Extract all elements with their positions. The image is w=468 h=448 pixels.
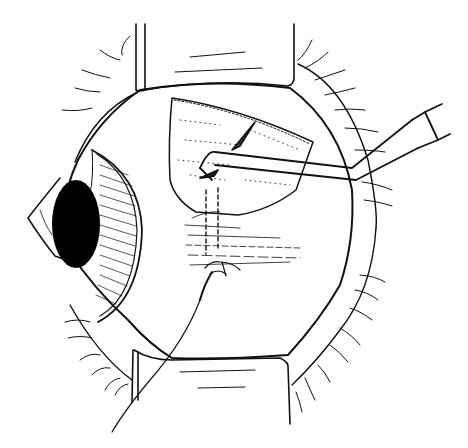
lid-margins	[70, 64, 376, 385]
surgical-illustration: Line illustration of an eye surgery: eye…	[0, 0, 468, 448]
cornea-iris	[28, 150, 142, 322]
pupil	[52, 180, 100, 268]
scleral-flap	[169, 98, 313, 215]
eyelashes-upper-left	[62, 36, 130, 111]
conjunctiva-lines	[185, 212, 300, 265]
suture-track	[206, 188, 218, 254]
eyelashes-lower-right	[296, 275, 385, 412]
suture-needle	[200, 272, 212, 300]
upper-retractor	[136, 24, 294, 91]
suture-thread	[112, 300, 200, 432]
lower-retractor	[132, 350, 290, 424]
eyelashes-upper-right	[298, 40, 392, 206]
eyelashes-lower-left	[65, 320, 128, 395]
